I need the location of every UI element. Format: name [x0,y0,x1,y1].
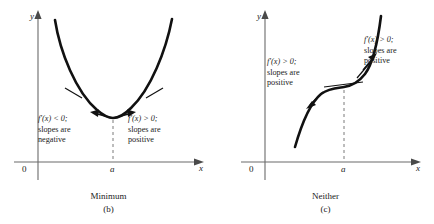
tick-label-a: a [341,165,346,174]
x-axis [14,158,204,165]
y-axis-label: y [30,12,34,21]
x-axis [241,158,421,165]
annotation-left-line1: f′(x) > 0; [267,57,297,66]
panel-neither: y x 0 a f′(x) > 0; slopes are positive f… [217,0,434,224]
origin-label: 0 [249,165,254,174]
annotation-left-positive-slopes: f′(x) > 0; slopes are positive [267,57,300,89]
tick-label-a: a [110,165,115,174]
annotation-right-positive-slopes: f′(x) > 0; slopes are positive [128,114,161,146]
y-axis [34,10,41,180]
figure-container: y x 0 a f′(x) < 0; slopes are negative f… [0,0,434,224]
annotation-left-negative-slopes: f′(x) < 0; slopes are negative [38,114,71,146]
annotation-left-line2: slopes are [38,125,71,134]
y-axis-label: y [257,12,261,21]
annotation-left-line3: negative [38,135,66,144]
annotation-right-line3: positive [364,56,390,65]
annotation-right-line2: slopes are [128,125,161,134]
y-axis [261,10,268,180]
panel-caption-letter: (c) [217,203,434,215]
origin-label: 0 [22,165,27,174]
annotation-left-line2: slopes are [267,68,300,77]
tangent-mark-right [146,88,163,98]
panel-minimum: y x 0 a f′(x) < 0; slopes are negative f… [0,0,217,224]
annotation-right-line2: slopes are [364,46,397,55]
panel-caption-letter: (b) [0,203,217,215]
annotation-right-line1: f′(x) > 0; [364,35,394,44]
annotation-left-line1: f′(x) < 0; [38,114,68,123]
x-axis-label: x [199,164,203,173]
panel-caption-name: Neither [217,190,434,202]
annotation-right-positive-slopes: f′(x) > 0; slopes are positive [364,35,397,67]
annotation-right-line3: positive [128,135,154,144]
parabola-curve [55,19,172,118]
annotation-right-line1: f′(x) > 0; [128,114,158,123]
tangent-arrow-lower [306,92,323,109]
annotation-left-line3: positive [267,78,293,87]
panel-caption-name: Minimum [0,190,217,202]
x-axis-label: x [416,164,420,173]
